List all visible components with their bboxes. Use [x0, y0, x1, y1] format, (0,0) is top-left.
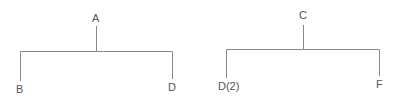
node-d: D — [168, 82, 176, 93]
node-b: B — [16, 84, 23, 95]
node-a: A — [92, 13, 99, 24]
node-c: C — [299, 10, 307, 21]
node-d2: D(2) — [218, 81, 239, 92]
node-f: F — [376, 79, 383, 90]
tree-connectors — [0, 0, 397, 103]
